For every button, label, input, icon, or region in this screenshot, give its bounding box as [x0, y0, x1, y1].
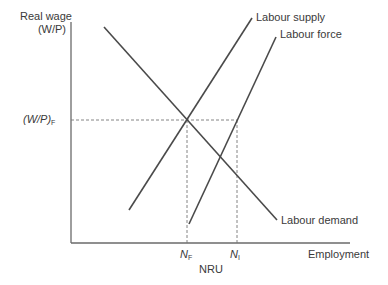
labour-supply-curve [129, 18, 252, 210]
ni-text: N [230, 248, 238, 260]
labour-force-label: Labour force [280, 28, 342, 41]
nf-text: N [180, 248, 188, 260]
y-axis-label-line2: (W/P) [20, 23, 66, 36]
labour-supply-label: Labour supply [256, 11, 325, 24]
y-axis-label: Real wage (W/P) [20, 10, 66, 36]
equilibrium-wage-text: (W/P) [23, 113, 51, 125]
y-axis-label-line1: Real wage [20, 10, 66, 23]
labour-demand-label: Labour demand [281, 214, 358, 227]
labour-force-curve [189, 37, 276, 224]
nru-label: NRU [199, 263, 223, 276]
nf-label: NF [180, 248, 192, 264]
labour-market-diagram [0, 0, 388, 285]
labour-demand-curve [104, 27, 277, 220]
ni-label: NI [230, 248, 240, 264]
equilibrium-wage-sub: F [51, 119, 55, 126]
x-axis-label: Employment [308, 248, 369, 261]
nf-sub: F [188, 254, 192, 261]
ni-sub: I [238, 254, 240, 261]
equilibrium-wage-label: (W/P)F [23, 113, 55, 129]
